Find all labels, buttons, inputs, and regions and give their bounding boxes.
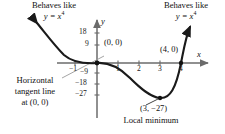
- y-tick-label-minus27: −27: [75, 90, 87, 99]
- left-behaves-line2: y = x: [44, 11, 62, 21]
- annotation-horizontal-tangent: Horizontal: [0, 76, 70, 86]
- point-label-local-minimum: (3, −27): [140, 104, 167, 113]
- point-local-minimum: [158, 96, 162, 100]
- x-tick-label-minus1: −1: [69, 65, 77, 74]
- left-behaves-exponent: 4: [61, 10, 64, 16]
- horizontal-tangent-line1: Horizontal: [17, 75, 54, 85]
- y-tick-label-9: 9: [85, 40, 89, 49]
- y-tick-label-18: 18: [79, 28, 87, 37]
- local-minimum-label: Local minimum: [123, 115, 178, 125]
- annotation-left-behaves-formula: y = x4: [19, 12, 89, 22]
- y-axis-label: y: [101, 17, 105, 27]
- x-tick-label-4: 4: [179, 65, 183, 74]
- x-tick-label-2: 2: [137, 65, 141, 74]
- x-axis-label: x: [197, 50, 201, 60]
- horizontal-tangent-line2: tangent line: [15, 86, 55, 96]
- x-tick-label-1: 1: [116, 65, 120, 74]
- right-behaves-line2: y = x: [176, 11, 194, 21]
- annotation-right-behaves-formula: y = x4: [150, 12, 222, 22]
- y-tick-label-minus9: −9: [80, 68, 88, 77]
- right-behaves-line1: Behaves like: [164, 0, 208, 10]
- annotation-left-behaves-like: Behaves like: [19, 1, 89, 11]
- annotation-horizontal-tangent-line2: tangent line: [0, 87, 70, 97]
- annotation-horizontal-tangent-line3: at (0, 0): [0, 98, 70, 108]
- figure-graph-quartic: Behaves like y = x4 Behaves like y = x4 …: [0, 0, 225, 134]
- annotation-right-behaves-like: Behaves like: [150, 1, 222, 11]
- y-tick-label-minus18: −18: [75, 79, 87, 88]
- left-behaves-line1: Behaves like: [32, 0, 76, 10]
- point-label-x-intercept-4: (4, 0): [160, 45, 178, 54]
- point-label-origin: (0, 0): [104, 38, 122, 47]
- annotation-local-minimum: Local minimum: [111, 116, 191, 126]
- horizontal-tangent-line3: at (0, 0): [22, 97, 49, 107]
- point-origin: [95, 61, 100, 66]
- right-behaves-exponent: 4: [193, 10, 196, 16]
- x-tick-label-3: 3: [158, 65, 162, 74]
